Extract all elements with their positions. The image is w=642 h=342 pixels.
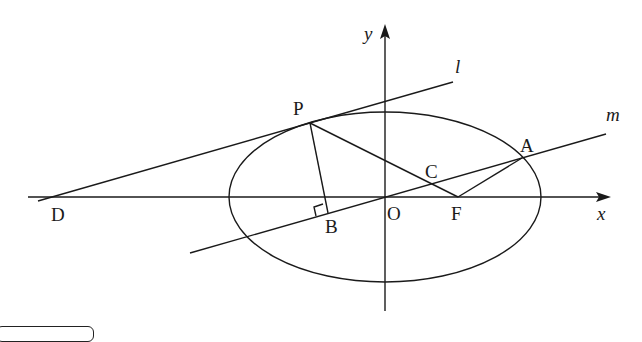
label-A: A: [520, 135, 534, 156]
line-l: [38, 82, 453, 201]
label-x: x: [596, 203, 606, 224]
label-m: m: [606, 104, 620, 125]
segment-PB: [310, 123, 328, 213]
label-D: D: [51, 204, 65, 225]
label-C: C: [425, 161, 438, 182]
segment-PF: [310, 123, 458, 197]
label-l: l: [455, 56, 460, 77]
segment-FA: [458, 158, 522, 197]
label-F: F: [451, 203, 462, 224]
label-y: y: [362, 23, 373, 44]
label-B: B: [325, 216, 338, 237]
bottom-frame: [0, 326, 94, 342]
label-O: O: [387, 203, 401, 224]
right-angle-marker: [314, 204, 323, 216]
label-P: P: [293, 98, 304, 119]
